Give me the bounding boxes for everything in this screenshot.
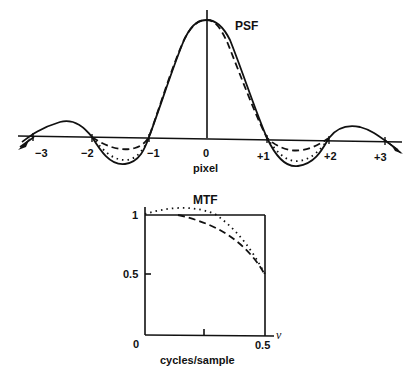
tick-label-plus-2: +2 [324, 150, 337, 162]
tick-label-minus-2: −2 [81, 147, 94, 159]
tick-label-minus-1: −1 [147, 147, 160, 159]
mtf-xlabel: cycles/sample [160, 354, 235, 366]
mtf-plot: MTF 1 0.5 0 0.5 ν cycles/sample [123, 193, 282, 366]
mtf-dotted-curve [145, 208, 265, 274]
psf-dashed-curve [92, 20, 329, 151]
psf-title: PSF [235, 19, 258, 33]
figure: PSF −3 −2 −1 0 +1 +2 +3 pixel MTF 1 0.5 … [0, 0, 416, 373]
psf-solid-curve [22, 20, 398, 166]
mtf-title: MTF [193, 193, 218, 207]
mtf-y-label-half: 0.5 [123, 268, 138, 280]
tick-label-minus-3: −3 [35, 147, 48, 159]
tick-label-zero: 0 [203, 147, 209, 159]
mtf-y-label-one: 1 [132, 209, 138, 221]
mtf-x-symbol: ν [276, 328, 282, 342]
mtf-x-label-zero: 0 [133, 338, 139, 350]
mtf-x-label-half: 0.5 [255, 339, 270, 351]
tick-label-plus-3: +3 [374, 151, 387, 163]
mtf-dashed-curve [178, 215, 265, 275]
psf-xlabel: pixel [193, 162, 218, 174]
psf-x-axis [18, 136, 402, 142]
mtf-x-axis [145, 335, 274, 336]
tick-label-plus-1: +1 [257, 150, 270, 162]
psf-plot: PSF −3 −2 −1 0 +1 +2 +3 pixel [18, 10, 403, 174]
